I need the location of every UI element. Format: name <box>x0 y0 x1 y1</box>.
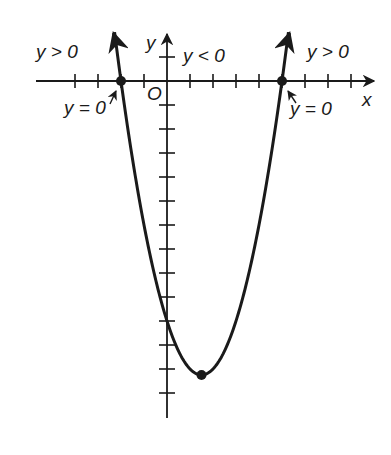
right-root-point <box>277 76 287 86</box>
parabola-diagram: y x O y > 0 y < 0 y > 0 y = 0 y = 0 <box>0 0 391 455</box>
left-root-point <box>116 76 126 86</box>
middle-region-label: y < 0 <box>181 45 225 66</box>
left-region-label: y > 0 <box>34 41 78 62</box>
left-root-pointer-icon <box>110 91 116 104</box>
left-root-label: y = 0 <box>62 97 106 118</box>
y-axis-label: y <box>144 32 157 53</box>
x-axis-label: x <box>361 89 373 110</box>
parabola-curve <box>115 32 289 375</box>
right-region-label: y > 0 <box>305 41 349 62</box>
vertex-point <box>197 370 207 380</box>
right-root-label: y = 0 <box>288 98 332 119</box>
origin-label: O <box>147 83 162 104</box>
